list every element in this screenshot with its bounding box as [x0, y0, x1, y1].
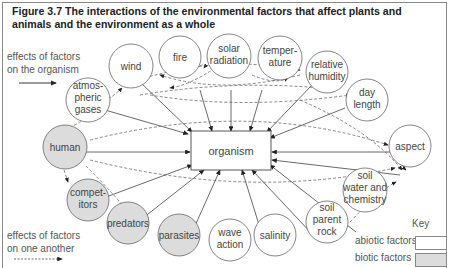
dashed-arrow-label: effects of factors on one another — [7, 229, 80, 255]
node-temperature: temper- ature — [258, 36, 302, 80]
svg-text:radiation: radiation — [210, 55, 248, 66]
svg-text:predators: predators — [107, 218, 149, 229]
node-salinity: salinity — [254, 214, 296, 256]
svg-text:soil: soil — [319, 202, 334, 213]
node-predators: predators — [107, 202, 149, 244]
node-aspect: aspect — [389, 125, 431, 167]
svg-text:salinity: salinity — [260, 230, 291, 241]
svg-text:water and: water and — [342, 182, 387, 193]
biotic-key-label: biotic factors — [355, 252, 411, 263]
svg-text:humidity: humidity — [308, 71, 345, 82]
svg-text:fire: fire — [173, 52, 187, 63]
node-competitors: compet- itors — [67, 179, 109, 221]
svg-text:compet-: compet- — [70, 187, 106, 198]
svg-text:solar: solar — [218, 43, 240, 54]
svg-text:atmos-: atmos- — [73, 80, 104, 91]
svg-text:day: day — [359, 87, 375, 98]
svg-text:soil: soil — [357, 170, 372, 181]
node-atmospheric-gases: atmos- pheric gases — [66, 78, 110, 122]
figure-frame: Figure 3.7 The interactions of the envir… — [0, 0, 450, 268]
node-soil-parent-rock: soil parent rock — [306, 201, 348, 243]
biotic-key-swatch — [415, 253, 447, 267]
svg-text:rock: rock — [318, 226, 338, 237]
svg-text:itors: itors — [79, 199, 98, 210]
interaction-diagram: organism atmos- pheric gases wind fire s… — [0, 0, 450, 268]
svg-text:ature: ature — [269, 57, 292, 68]
svg-text:wind: wind — [120, 61, 142, 72]
node-fire: fire — [159, 36, 201, 78]
svg-text:length: length — [353, 99, 380, 110]
svg-text:human: human — [50, 142, 81, 153]
node-day-length: day length — [346, 79, 388, 121]
node-human: human — [43, 125, 87, 169]
svg-text:parent: parent — [313, 214, 342, 225]
node-relative-humidity: relative humidity — [306, 51, 348, 93]
svg-text:relative: relative — [311, 59, 344, 70]
svg-text:action: action — [217, 239, 244, 250]
svg-text:pheric: pheric — [74, 92, 101, 103]
abiotic-key-swatch — [415, 236, 447, 250]
node-wind: wind — [109, 44, 153, 88]
abiotic-key-label: abiotic factors — [355, 235, 417, 246]
node-wave-action: wave action — [209, 219, 251, 261]
node-parasites: parasites — [158, 214, 200, 256]
svg-text:parasites: parasites — [159, 230, 200, 241]
node-soil-water-chemistry: soil water and chemistry — [342, 168, 387, 212]
svg-text:gases: gases — [75, 104, 102, 115]
solid-arrow-label: effects of factors on the organism — [7, 50, 80, 76]
organism-label: organism — [208, 145, 253, 157]
svg-text:temper-: temper- — [263, 45, 297, 56]
node-solar-radiation: solar radiation — [207, 34, 251, 78]
svg-text:wave: wave — [217, 227, 242, 238]
key-title: Key — [412, 218, 429, 229]
svg-text:chemistry: chemistry — [344, 194, 387, 205]
svg-text:aspect: aspect — [395, 141, 425, 152]
